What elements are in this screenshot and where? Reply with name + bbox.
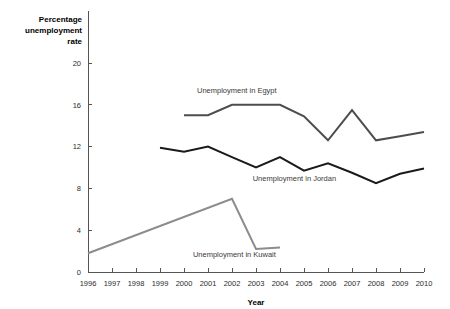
unemployment-line-chart: 048121620Percentageunemploymentrate19961… (0, 0, 450, 309)
x-axis-title: Year (248, 298, 265, 307)
series-label: Unemployment in Jordan (253, 174, 336, 183)
x-tick-label: 2005 (296, 279, 313, 288)
series-label: Unemployment in Egypt (197, 86, 278, 95)
x-tick-label: 2000 (176, 279, 193, 288)
x-tick-label: 2001 (200, 279, 217, 288)
series-line (184, 105, 424, 141)
x-tick-label: 2003 (248, 279, 265, 288)
x-tick-label: 2008 (368, 279, 385, 288)
x-tick-label: 1997 (104, 279, 121, 288)
x-tick-label: 2009 (392, 279, 409, 288)
y-axis-title-line: rate (67, 37, 82, 46)
x-tick-label: 2006 (320, 279, 337, 288)
x-tick-label: 2002 (224, 279, 241, 288)
y-axis-title-line: Percentage (39, 15, 83, 24)
y-axis-title-line: unemployment (25, 26, 82, 35)
series-line (88, 199, 280, 253)
y-tick-label: 0 (77, 268, 81, 277)
series-label: Unemployment in Kuwait (193, 250, 277, 259)
x-tick-label: 2007 (344, 279, 361, 288)
y-tick-label: 16 (73, 101, 81, 110)
x-tick-label: 1998 (128, 279, 145, 288)
y-tick-label: 8 (77, 184, 81, 193)
x-tick-label: 2004 (272, 279, 289, 288)
chart-canvas: 048121620Percentageunemploymentrate19961… (0, 0, 450, 309)
y-tick-label: 20 (73, 59, 81, 68)
x-tick-label: 1996 (80, 279, 97, 288)
x-tick-label: 2010 (416, 279, 433, 288)
y-tick-label: 4 (77, 226, 81, 235)
y-tick-label: 12 (73, 142, 81, 151)
x-tick-label: 1999 (152, 279, 169, 288)
